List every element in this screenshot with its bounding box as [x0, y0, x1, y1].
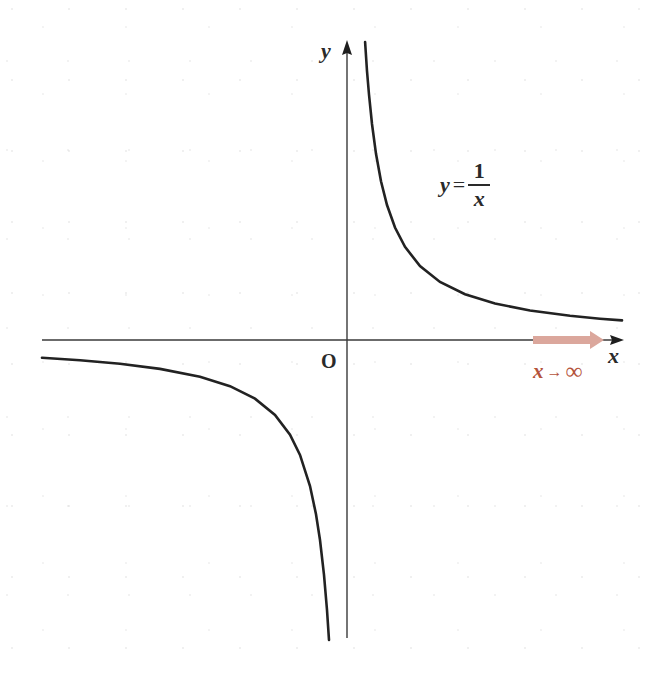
equation-fraction: 1 x — [468, 160, 490, 210]
equation-equals: = — [453, 172, 465, 198]
infinity-symbol: ∞ — [566, 358, 583, 385]
fraction-denominator: x — [474, 188, 485, 210]
limit-arrow-icon: → — [547, 363, 563, 381]
limit-annotation: x → ∞ — [533, 358, 583, 385]
hyperbola-plot — [0, 0, 658, 676]
equation-lhs: y — [440, 172, 450, 198]
fraction-numerator: 1 — [472, 160, 487, 182]
limit-arrow-head-icon — [590, 331, 604, 349]
curve-positive-branch — [365, 42, 622, 320]
limit-arrow-shaft — [533, 336, 593, 344]
limit-variable: x — [533, 359, 544, 384]
equation-label: y = 1 x — [440, 160, 490, 210]
curve-negative-branch — [42, 358, 329, 640]
x-axis-label: x — [608, 345, 619, 367]
origin-label: O — [321, 351, 337, 371]
y-axis-label: y — [321, 40, 331, 62]
y-axis-arrow-icon — [342, 40, 352, 55]
